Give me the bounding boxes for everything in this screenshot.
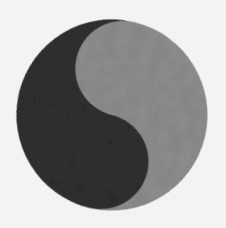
- yin-yang-symbol: [0, 0, 226, 228]
- image-canvas: yin-yang symbol without dots: [0, 0, 226, 228]
